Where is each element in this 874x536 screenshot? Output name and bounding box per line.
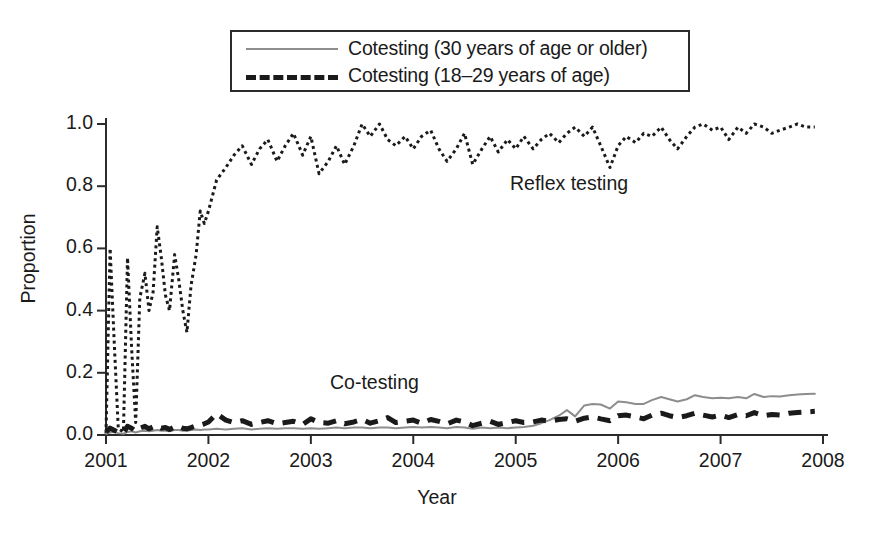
x-tick-label: 2008 (788, 449, 858, 472)
y-tick-marks (97, 124, 106, 435)
x-tick-label: 2005 (481, 449, 551, 472)
axes-group (97, 118, 828, 444)
y-tick-label: 0.6 (31, 235, 93, 258)
x-tick-marks (106, 435, 823, 444)
x-axis-title: Year (0, 486, 874, 509)
y-tick-label: 0.0 (31, 422, 93, 445)
x-tick-label: 2001 (71, 449, 141, 472)
annotation-co-testing: Co-testing (330, 371, 419, 394)
y-tick-label: 0.4 (31, 298, 93, 321)
x-tick-label: 2002 (173, 449, 243, 472)
data-series-group (106, 124, 815, 434)
x-tick-label: 2006 (583, 449, 653, 472)
y-tick-label: 1.0 (31, 111, 93, 134)
x-tick-label: 2003 (276, 449, 346, 472)
x-tick-label: 2007 (686, 449, 756, 472)
y-axis-title: Proportion (17, 169, 40, 349)
chart-figure: Cotesting (30 years of age or older) Cot… (0, 0, 874, 536)
y-tick-label: 0.2 (31, 360, 93, 383)
y-tick-label: 0.8 (31, 173, 93, 196)
x-tick-label: 2004 (378, 449, 448, 472)
annotation-reflex-testing: Reflex testing (510, 172, 628, 195)
series-line-reflex-testing (106, 124, 815, 433)
